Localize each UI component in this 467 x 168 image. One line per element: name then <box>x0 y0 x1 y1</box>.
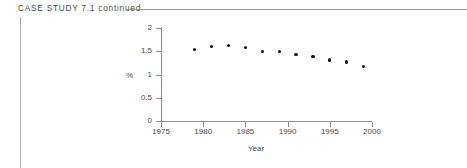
data-point <box>294 53 297 56</box>
y-tick-mark <box>156 75 161 76</box>
x-tick-label: 1995 <box>315 127 345 136</box>
x-tick-label: 1975 <box>146 127 176 136</box>
data-point <box>311 55 314 58</box>
y-tick-mark <box>156 28 161 29</box>
page-root: CASE STUDY 7.1 continued 00.511.52 19751… <box>0 0 467 168</box>
data-point <box>244 46 247 49</box>
data-point <box>227 44 230 47</box>
x-axis-line <box>161 121 372 122</box>
data-point <box>362 65 365 68</box>
y-tick-label: 1.5 <box>126 46 152 55</box>
x-tick-label: 1985 <box>230 127 260 136</box>
scatter-chart: 00.511.52 197519801985199019952000 % Yea… <box>0 0 467 168</box>
data-point <box>328 58 331 61</box>
data-point <box>261 50 264 53</box>
y-axis-line <box>161 27 162 122</box>
x-tick-label: 1980 <box>188 127 218 136</box>
y-tick-mark <box>156 51 161 52</box>
data-point <box>210 45 213 48</box>
data-point <box>193 48 196 51</box>
data-point <box>278 50 281 53</box>
x-tick-label: 1990 <box>273 127 303 136</box>
y-tick-label: 2 <box>126 23 152 32</box>
y-tick-mark <box>156 98 161 99</box>
x-axis-title: Year <box>248 144 264 153</box>
data-point <box>345 60 348 63</box>
y-tick-label: 0.5 <box>126 93 152 102</box>
y-tick-label: 0 <box>126 116 152 125</box>
x-tick-label: 2000 <box>357 127 387 136</box>
y-axis-title: % <box>126 71 133 80</box>
